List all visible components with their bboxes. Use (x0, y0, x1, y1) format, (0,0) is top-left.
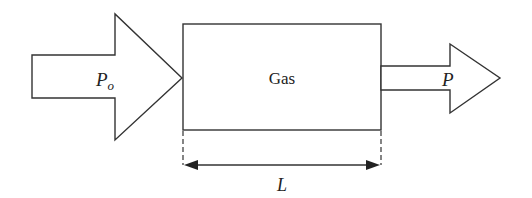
diagram-canvas: Po Gas P L (0, 0, 532, 198)
length-label: L (276, 175, 287, 195)
outlet-pressure-label: P (441, 69, 454, 90)
arrowhead-right-icon (366, 160, 380, 170)
arrowhead-left-icon (184, 160, 198, 170)
outlet-arrow (381, 44, 500, 113)
chamber-label: Gas (269, 69, 295, 88)
